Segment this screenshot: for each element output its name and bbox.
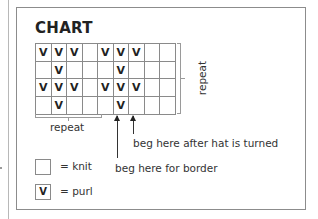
chart-cell bbox=[129, 61, 145, 79]
chart-cell: V bbox=[129, 79, 145, 97]
stitch-repeat-label: repeat bbox=[50, 121, 84, 133]
purl-symbol-box: V bbox=[35, 184, 51, 200]
chart-cell: V bbox=[129, 44, 145, 62]
chart-cell bbox=[144, 97, 160, 115]
chart-cell bbox=[67, 97, 83, 115]
knit-symbol-box bbox=[35, 159, 51, 175]
chart-cell: V bbox=[113, 97, 129, 115]
chart-cell bbox=[160, 97, 176, 115]
chart-cell: V bbox=[67, 79, 83, 97]
chart-cell: V bbox=[51, 79, 67, 97]
chart-cell bbox=[144, 79, 160, 97]
chart-row: V V bbox=[36, 97, 176, 115]
chart-cell: V bbox=[113, 44, 129, 62]
chart-cell bbox=[98, 97, 114, 115]
chart-cell bbox=[82, 61, 98, 79]
chart-cell bbox=[98, 61, 114, 79]
knitting-chart-grid: V V V V V V V V V V V V V bbox=[35, 43, 176, 115]
purl-legend-label: = purl bbox=[60, 185, 93, 197]
chart-cell bbox=[160, 61, 176, 79]
chart-cell: V bbox=[67, 44, 83, 62]
chart-cell bbox=[36, 61, 52, 79]
chart-cell bbox=[82, 97, 98, 115]
chart-cell bbox=[36, 97, 52, 115]
chart-cell: V bbox=[98, 79, 114, 97]
chart-cell: V bbox=[51, 44, 67, 62]
chart-title: CHART bbox=[35, 19, 93, 37]
knit-legend-label: = knit bbox=[60, 160, 92, 172]
begin-border-label: beg here for border bbox=[115, 162, 218, 174]
chart-row: V V bbox=[36, 61, 176, 79]
chart-cell: V bbox=[51, 61, 67, 79]
chart-cell: V bbox=[98, 44, 114, 62]
chart-cell: V bbox=[113, 79, 129, 97]
chart-cell bbox=[82, 79, 98, 97]
chart-cell bbox=[82, 44, 98, 62]
begin-after-turned-label: beg here after hat is turned bbox=[133, 137, 278, 149]
chart-cell bbox=[160, 79, 176, 97]
chart-cell bbox=[144, 61, 160, 79]
chart-cell bbox=[67, 61, 83, 79]
chart-cell bbox=[160, 44, 176, 62]
arrow-up-icon bbox=[133, 116, 134, 134]
chart-row: V V V V V V bbox=[36, 44, 176, 62]
margin-tick bbox=[0, 167, 2, 169]
row-repeat-label: repeat bbox=[196, 58, 208, 98]
page-margin-rule bbox=[8, 0, 9, 219]
chart-cell: V bbox=[51, 97, 67, 115]
row-repeat-bracket-tick bbox=[181, 78, 185, 79]
chart-cell: V bbox=[36, 79, 52, 97]
arrow-up-icon bbox=[117, 116, 118, 158]
chart-cell bbox=[129, 97, 145, 115]
chart-cell bbox=[144, 44, 160, 62]
chart-cell: V bbox=[36, 44, 52, 62]
chart-row: V V V V V V bbox=[36, 79, 176, 97]
chart-cell: V bbox=[113, 61, 129, 79]
